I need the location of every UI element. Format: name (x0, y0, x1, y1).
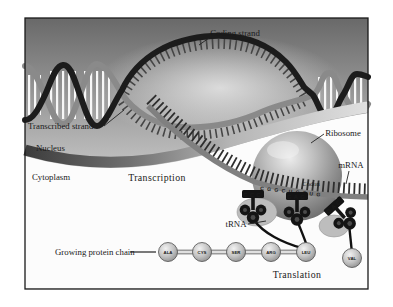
anticodon-2: GAG (287, 194, 307, 200)
amino-label-arg: ARG (266, 250, 276, 255)
translation-label: Translation (273, 269, 322, 280)
codon-label: Codon (302, 180, 320, 187)
amino-label-val: VAL (348, 256, 357, 261)
coding-strand-label: Coding strand (210, 28, 260, 38)
amino-label-leu: LEU (302, 250, 311, 255)
diagram-canvas: CGGCUCCUG Codon GCC GAG GAC ALA CYS SER … (0, 0, 393, 307)
cytoplasm-label: Cytoplasm (32, 172, 70, 182)
amino-label-ala: ALA (164, 250, 173, 255)
amino-label-cys: CYS (198, 250, 207, 255)
amino-label-ser: SER (232, 250, 242, 255)
ribosome-label: Ribosome (325, 128, 361, 138)
trna-label: tRNA (225, 219, 247, 229)
mrna-label: mRNA (338, 160, 364, 170)
transcribed-strand-label: Transcribed strand (28, 121, 94, 131)
ribosome-highlight (267, 141, 299, 159)
anticodon-1: GCC (243, 192, 262, 198)
growing-protein-chain-label: Growing protein chain (55, 247, 135, 257)
nucleus-label: Nucleus (36, 143, 65, 153)
transcription-label: Transcription (128, 172, 186, 183)
figure-page: CGGCUCCUG Codon GCC GAG GAC ALA CYS SER … (0, 0, 393, 307)
